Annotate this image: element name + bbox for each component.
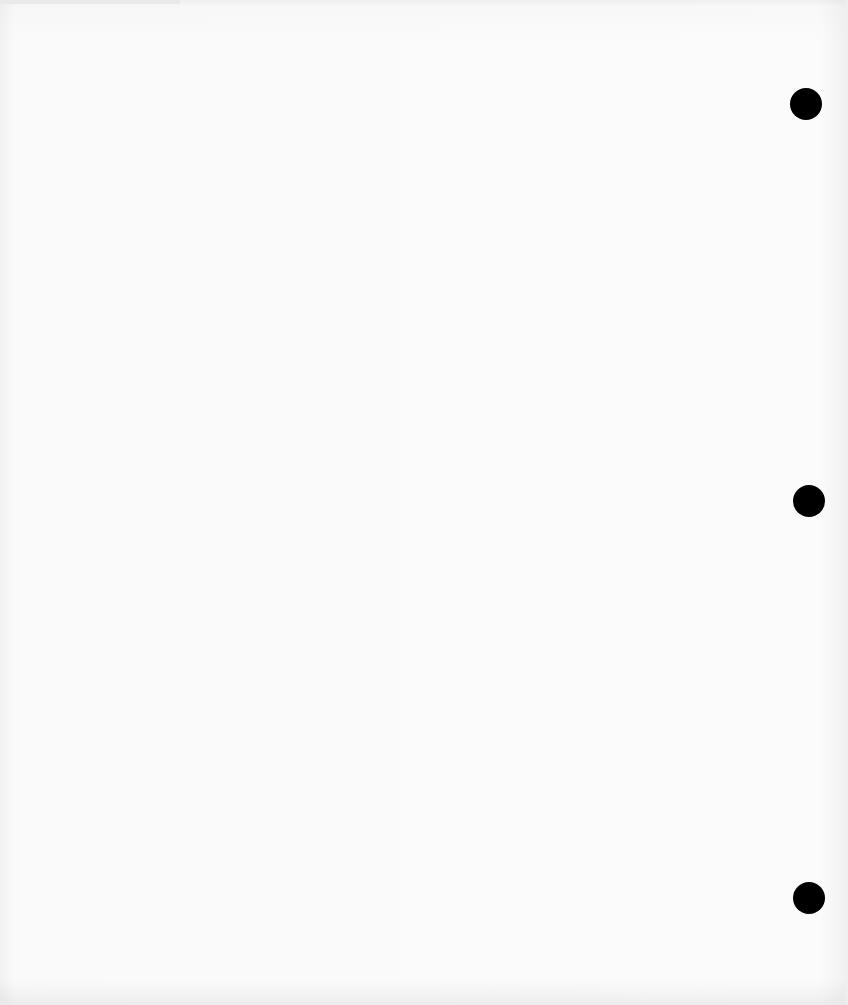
punch-hole-middle [793,485,825,517]
punch-hole-bottom [793,882,825,914]
punch-hole-top [790,88,822,120]
paper-top-edge-shadow [0,0,180,4]
paper-sheet [0,0,848,1005]
paper-bottom-edge-shadow [0,999,848,1005]
paper-right-edge-shadow [842,0,848,1005]
